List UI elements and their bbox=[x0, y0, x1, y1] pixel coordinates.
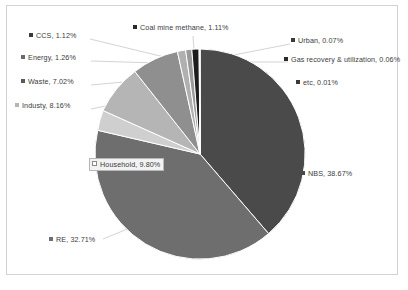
data-label-gas-recovery[interactable]: Gas recovery & utilization, 0.06% bbox=[284, 55, 400, 64]
data-label-energy-text: Energy, 1.26% bbox=[28, 53, 76, 62]
marker-swatch-re bbox=[49, 237, 53, 241]
marker-swatch-ccs bbox=[29, 33, 33, 37]
data-label-coal-mine-methane-text: Coal mine methane, 1.11% bbox=[140, 23, 229, 32]
data-label-urban-text: Urban, 0.07% bbox=[298, 36, 343, 45]
marker-swatch-urban bbox=[291, 38, 295, 42]
data-label-household[interactable]: Household, 9.80% bbox=[89, 158, 164, 171]
data-label-household-text: Household, 9.80% bbox=[100, 160, 160, 169]
chart-frame: CCS, 1.12% Energy, 1.26% Waste, 7.02% In… bbox=[6, 5, 398, 275]
pie-chart-plot-area[interactable]: CCS, 1.12% Energy, 1.26% Waste, 7.02% In… bbox=[7, 6, 397, 274]
data-label-re-text: RE, 32.71% bbox=[56, 235, 95, 244]
data-label-nbs[interactable]: NBS, 38.67% bbox=[301, 169, 352, 178]
data-label-etc-text: etc, 0.01% bbox=[303, 78, 338, 87]
marker-swatch-gas-recovery bbox=[284, 57, 288, 61]
data-label-gas-recovery-text: Gas recovery & utilization, 0.06% bbox=[291, 55, 400, 64]
data-label-ccs-text: CCS, 1.12% bbox=[36, 31, 77, 40]
data-label-industy[interactable]: Industy, 8.16% bbox=[15, 101, 70, 110]
marker-swatch-energy bbox=[21, 55, 25, 59]
data-label-urban[interactable]: Urban, 0.07% bbox=[291, 36, 343, 45]
data-label-coal-mine-methane[interactable]: Coal mine methane, 1.11% bbox=[133, 23, 229, 32]
data-label-nbs-text: NBS, 38.67% bbox=[308, 169, 352, 178]
data-label-waste[interactable]: Waste, 7.02% bbox=[21, 77, 74, 86]
data-label-waste-text: Waste, 7.02% bbox=[28, 77, 74, 86]
marker-swatch-nbs bbox=[301, 171, 305, 175]
pie-slices[interactable] bbox=[95, 49, 305, 259]
data-label-etc[interactable]: etc, 0.01% bbox=[296, 78, 338, 87]
marker-swatch-coal-mine-methane bbox=[133, 25, 137, 29]
data-label-industy-text: Industy, 8.16% bbox=[22, 101, 70, 110]
marker-swatch-industy bbox=[15, 103, 19, 107]
marker-swatch-etc bbox=[296, 80, 300, 84]
data-label-energy[interactable]: Energy, 1.26% bbox=[21, 53, 76, 62]
marker-swatch-household bbox=[92, 161, 97, 166]
data-label-re[interactable]: RE, 32.71% bbox=[49, 235, 95, 244]
data-label-ccs[interactable]: CCS, 1.12% bbox=[29, 31, 77, 40]
marker-swatch-waste bbox=[21, 79, 25, 83]
